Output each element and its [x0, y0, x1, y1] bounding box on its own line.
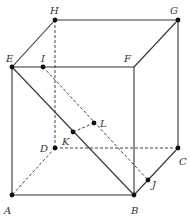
point-I — [41, 65, 46, 70]
label-B: B — [130, 205, 138, 216]
label-H: H — [49, 5, 59, 16]
cube-diagram: ABCDEFGHIJKL — [0, 0, 190, 222]
vertex-labels: ABCDEFGHIJKL — [3, 5, 187, 216]
edge-EH — [12, 20, 55, 67]
point-A — [10, 193, 15, 198]
label-I: I — [40, 53, 46, 64]
label-K: K — [61, 136, 70, 147]
edge-DA — [12, 148, 55, 195]
label-G: G — [170, 5, 178, 16]
label-E: E — [5, 53, 14, 64]
point-D — [53, 146, 58, 151]
label-C: C — [179, 156, 187, 167]
point-C — [176, 146, 181, 151]
point-H — [53, 18, 58, 23]
edge-KL — [73, 123, 94, 132]
point-B — [132, 193, 137, 198]
edge-GF — [134, 20, 178, 67]
point-E — [10, 65, 15, 70]
edge-CJ — [148, 148, 178, 180]
edge-JB — [134, 180, 148, 195]
point-G — [176, 18, 181, 23]
visible-edges — [12, 20, 178, 195]
label-A: A — [3, 205, 11, 216]
label-L: L — [99, 118, 107, 129]
point-J — [146, 178, 151, 183]
point-L — [92, 121, 97, 126]
label-J: J — [150, 179, 157, 190]
label-F: F — [123, 53, 132, 64]
point-K — [71, 130, 76, 135]
label-D: D — [39, 143, 48, 154]
